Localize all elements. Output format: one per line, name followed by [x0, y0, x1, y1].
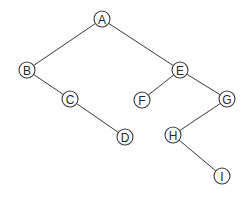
node-c: C — [62, 91, 78, 107]
node-label: C — [66, 93, 75, 107]
edge-a-b — [27, 19, 102, 70]
node-d: D — [117, 129, 133, 145]
node-label: F — [138, 94, 145, 108]
node-h: H — [165, 127, 181, 143]
node-a: A — [94, 11, 110, 27]
node-i: I — [214, 168, 230, 184]
tree-canvas: ABCDEFGHI — [0, 0, 246, 199]
node-b: B — [19, 62, 35, 78]
edge-g-h — [173, 99, 227, 135]
tree-diagram: ABCDEFGHI — [0, 0, 246, 199]
node-label: I — [220, 170, 223, 184]
edge-c-d — [70, 99, 125, 137]
node-label: B — [23, 64, 31, 78]
node-label: H — [169, 129, 178, 143]
edges-group — [27, 19, 227, 176]
node-label: A — [98, 13, 106, 27]
node-f: F — [134, 92, 150, 108]
nodes-group: ABCDEFGHI — [19, 11, 235, 184]
edge-a-e — [102, 19, 180, 70]
node-g: G — [219, 91, 235, 107]
node-e: E — [172, 62, 188, 78]
edge-h-i — [173, 135, 222, 176]
node-label: E — [176, 64, 184, 78]
node-label: G — [222, 93, 231, 107]
node-label: D — [121, 131, 130, 145]
